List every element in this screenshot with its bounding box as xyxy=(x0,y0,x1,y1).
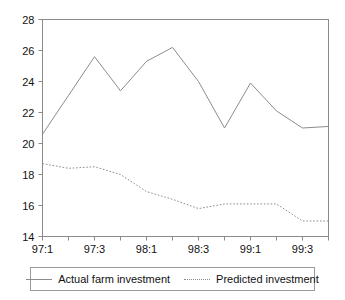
legend-entry-predicted-investment: Predicted investment xyxy=(184,274,319,285)
line-chart: 1416182022242628 97:197:398:198:399:199:… xyxy=(0,0,345,300)
x-tick-label: 98:3 xyxy=(188,243,209,255)
x-tick-label: 99:1 xyxy=(240,243,261,255)
x-tick-label: 98:1 xyxy=(136,243,157,255)
y-tick-label: 24 xyxy=(22,76,34,88)
legend-label-predicted: Predicted investment xyxy=(216,274,319,285)
plot-area-frame xyxy=(43,20,329,237)
x-axis-tick-labels: 97:197:398:198:399:199:3 xyxy=(32,243,313,255)
legend-line-swatch-solid-icon xyxy=(26,279,52,280)
series-line-predicted xyxy=(43,164,329,221)
y-tick-label: 26 xyxy=(22,45,34,57)
y-axis-ticks xyxy=(39,20,43,237)
x-axis-ticks xyxy=(43,237,329,241)
y-tick-label: 14 xyxy=(22,231,34,243)
y-tick-label: 16 xyxy=(22,200,34,212)
x-tick-label: 97:1 xyxy=(32,243,53,255)
y-tick-label: 20 xyxy=(22,138,34,150)
legend-line-swatch-dotted-icon xyxy=(184,279,210,280)
x-tick-label: 99:3 xyxy=(292,243,313,255)
y-tick-label: 28 xyxy=(22,14,34,26)
legend-entry-actual-farm-investment: Actual farm investment xyxy=(26,274,170,285)
chart-figure: 1416182022242628 97:197:398:198:399:199:… xyxy=(0,0,345,300)
legend-label-actual: Actual farm investment xyxy=(58,274,170,285)
y-axis-tick-labels: 1416182022242628 xyxy=(22,14,34,243)
chart-legend: Actual farm investment Predicted investm… xyxy=(30,267,315,291)
y-tick-label: 22 xyxy=(22,107,34,119)
x-tick-label: 97:3 xyxy=(84,243,105,255)
y-tick-label: 18 xyxy=(22,169,34,181)
series-line-actual xyxy=(43,47,329,134)
data-series-group xyxy=(43,47,329,221)
